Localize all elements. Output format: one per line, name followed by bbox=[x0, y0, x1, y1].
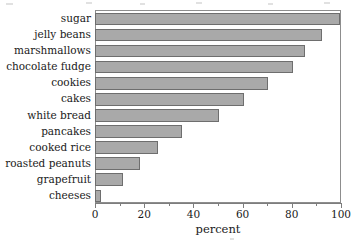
x-axis-minor-tick bbox=[169, 203, 170, 206]
y-axis-label-pancakes: pancakes bbox=[0, 123, 91, 139]
bar-row bbox=[96, 188, 340, 204]
bar-row bbox=[96, 140, 340, 156]
bar-row bbox=[96, 156, 340, 172]
y-axis-label-cooked-rice: cooked rice bbox=[0, 139, 91, 155]
y-axis-label-jelly-beans: jelly beans bbox=[0, 26, 91, 42]
scan-speckle bbox=[140, 3, 145, 5]
y-axis-label-cheeses: cheeses bbox=[0, 187, 91, 203]
scan-speckle bbox=[268, 3, 273, 5]
x-axis-minor-tick bbox=[218, 203, 219, 206]
bar-chart-figure: sugarjelly beansmarshmallowschocolate fu… bbox=[0, 0, 355, 243]
bar-row bbox=[96, 59, 340, 75]
y-axis-label-sugar: sugar bbox=[0, 10, 91, 26]
x-axis-tick-label: 100 bbox=[321, 208, 355, 220]
bar-row bbox=[96, 108, 340, 124]
bar-row bbox=[96, 75, 340, 91]
bar-grapefruit bbox=[95, 173, 123, 186]
scan-speckle bbox=[324, 2, 330, 4]
y-axis-category-labels: sugarjelly beansmarshmallowschocolate fu… bbox=[0, 10, 91, 203]
bar-marshmallows bbox=[95, 45, 305, 58]
x-axis-tick-label: 60 bbox=[223, 208, 263, 220]
bar-cakes bbox=[95, 93, 244, 106]
bar-chocolate-fudge bbox=[95, 61, 293, 74]
y-axis-label-marshmallows: marshmallows bbox=[0, 42, 91, 58]
bar-sugar bbox=[95, 13, 340, 26]
x-axis-tick-label: 40 bbox=[173, 208, 213, 220]
y-axis-label-cakes: cakes bbox=[0, 90, 91, 106]
bar-row bbox=[96, 27, 340, 43]
x-axis-tick-label: 80 bbox=[272, 208, 312, 220]
bar-jelly-beans bbox=[95, 29, 322, 42]
x-axis-tick-label: 20 bbox=[124, 208, 164, 220]
bar-row bbox=[96, 172, 340, 188]
scan-speckle bbox=[6, 3, 13, 5]
bar-roasted-peanuts bbox=[95, 157, 140, 170]
bar-rows bbox=[96, 11, 340, 202]
bar-row bbox=[96, 124, 340, 140]
y-axis-label-roasted-peanuts: roasted peanuts bbox=[0, 155, 91, 171]
x-axis-tick-label: 0 bbox=[75, 208, 115, 220]
bar-row bbox=[96, 43, 340, 59]
x-axis-minor-tick bbox=[120, 203, 121, 206]
scan-speckle bbox=[230, 238, 234, 240]
bar-cooked-rice bbox=[95, 141, 158, 154]
bar-row bbox=[96, 91, 340, 107]
y-axis-label-white-bread: white bread bbox=[0, 107, 91, 123]
x-axis-minor-tick bbox=[316, 203, 317, 206]
bar-row bbox=[96, 11, 340, 27]
x-axis-title: percent bbox=[95, 222, 341, 236]
bar-pancakes bbox=[95, 125, 182, 138]
x-axis-minor-tick bbox=[267, 203, 268, 206]
y-axis-label-cookies: cookies bbox=[0, 74, 91, 90]
bar-cookies bbox=[95, 77, 268, 90]
y-axis-label-grapefruit: grapefruit bbox=[0, 171, 91, 187]
bar-cheeses bbox=[95, 190, 101, 203]
scan-speckle bbox=[86, 2, 92, 4]
y-axis-label-chocolate-fudge: chocolate fudge bbox=[0, 58, 91, 74]
scan-speckle bbox=[196, 2, 202, 4]
bar-white-bread bbox=[95, 109, 219, 122]
plot-area bbox=[95, 10, 341, 203]
